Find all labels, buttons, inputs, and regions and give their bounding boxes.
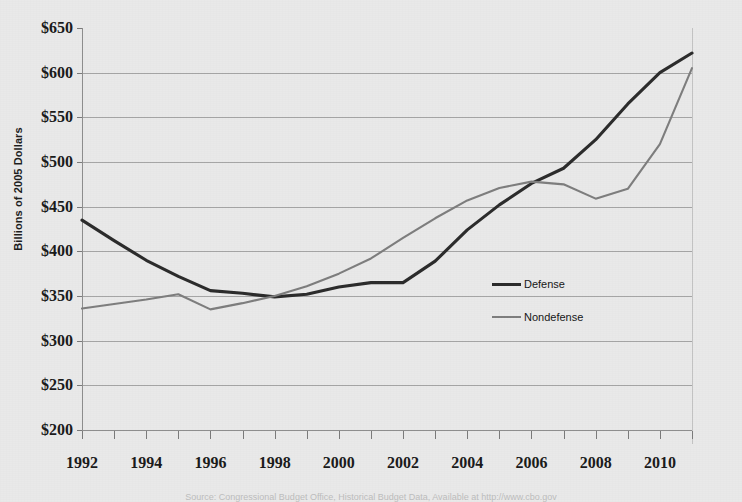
plot-lines	[0, 0, 742, 502]
chart-screenshot: Billions of 2005 Dollars $650$600$550$50…	[0, 0, 742, 502]
legend-label-defense: Defense	[524, 278, 565, 290]
source-note: Source: Congressional Budget Office, His…	[0, 492, 742, 502]
series-line-defense	[82, 53, 692, 297]
legend-swatch-nondefense	[492, 316, 521, 318]
legend-swatch-defense	[492, 283, 521, 286]
line-chart: Billions of 2005 Dollars $650$600$550$50…	[0, 0, 742, 502]
legend-label-nondefense: Nondefense	[524, 311, 583, 323]
